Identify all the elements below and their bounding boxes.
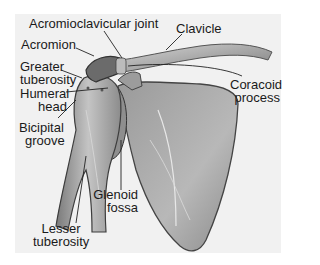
scapula-bone — [118, 82, 238, 251]
label-acromion: Acromion — [21, 38, 76, 51]
label-clavicle: Clavicle — [176, 22, 222, 35]
label-humeral-head-line2: head — [20, 100, 67, 113]
label-coracoid-process-line2: process — [230, 91, 280, 104]
label-lesser-tuberosity-line2: tuberosity — [33, 235, 89, 248]
label-glenoid-fossa-line2: fossa — [90, 201, 138, 214]
clavicle-bone — [108, 44, 272, 74]
label-greater-tuberosity-line2: tuberosity — [20, 73, 76, 86]
label-acromioclavicular-joint: Acromioclavicular joint — [29, 17, 158, 30]
label-bicipital-groove-line2: groove — [25, 134, 65, 147]
